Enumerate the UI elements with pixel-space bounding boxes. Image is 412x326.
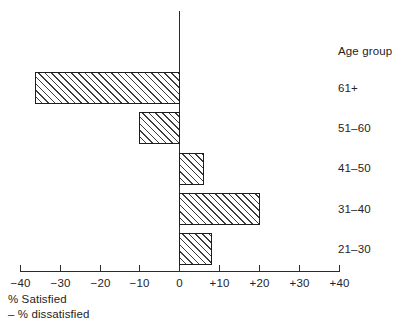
x-axis-tick-label--20: −20: [80, 277, 121, 289]
age-group-column-header: Age group: [338, 45, 392, 58]
x-axis-tick--30: [60, 265, 61, 271]
category-label-51-60: 51–60: [338, 122, 371, 135]
x-axis-tick-label-10: +10: [199, 277, 240, 289]
bar-51-60: [139, 112, 180, 144]
axis-caption-line-2: – % dissatisfied: [8, 307, 90, 322]
x-axis-tick-label-20: +20: [239, 277, 280, 289]
x-axis-tick-label--40: −40: [0, 277, 41, 289]
x-axis-tick--40: [20, 265, 21, 271]
category-label-61-plus: 61+: [338, 82, 358, 95]
x-axis-tick-10: [219, 265, 220, 271]
x-axis-tick-40: [339, 265, 340, 271]
x-axis-tick-label-0: 0: [159, 277, 200, 289]
bar-21-30: [179, 233, 212, 265]
category-label-31-40: 31–40: [338, 203, 371, 216]
chart-screenshot: −40 −30 −20 −10 0 +10 +20 +30 +40 Age gr…: [0, 0, 412, 326]
x-axis-tick-label--30: −30: [40, 277, 81, 289]
x-axis-tick-label--10: −10: [119, 277, 160, 289]
category-label-21-30: 21–30: [338, 243, 371, 256]
x-axis-tick--20: [100, 265, 101, 271]
bar-41-50: [179, 153, 204, 185]
x-axis-tick-label-30: +30: [279, 277, 320, 289]
category-label-41-50: 41–50: [338, 162, 371, 175]
x-axis-line: [20, 271, 340, 272]
axis-caption-line-1: % Satisfied: [8, 292, 67, 307]
bar-61-plus: [35, 72, 180, 104]
x-axis-tick-20: [259, 265, 260, 271]
bar-31-40: [179, 193, 260, 225]
x-axis-tick--10: [139, 265, 140, 271]
x-axis-tick-label-40: +40: [319, 277, 360, 289]
x-axis-tick-0: [179, 265, 180, 271]
x-axis-tick-30: [299, 265, 300, 271]
